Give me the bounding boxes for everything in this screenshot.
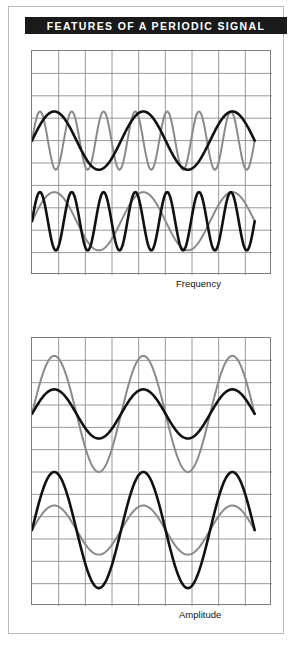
figure-title-bar: FEATURES OF A PERIODIC SIGNAL [25,17,287,34]
figure-title: FEATURES OF A PERIODIC SIGNAL [47,20,265,32]
chart-amplitude-canvas [32,338,272,606]
wave-large-amplitude-light [32,356,255,472]
chart-frequency [31,50,271,274]
wave-small-amplitude-dark [32,389,255,438]
panel-amplitude: Amplitude [31,337,271,629]
chart-amplitude-label: Amplitude [179,609,221,620]
chart-frequency-label: Frequency [176,278,221,289]
grid-lines [32,51,272,275]
wave-large-amplitude-dark [32,472,255,588]
panel-frequency: Frequency [31,50,271,298]
chart-amplitude [31,337,271,605]
figure-frame: FEATURES OF A PERIODIC SIGNAL Frequency … [8,6,284,634]
wave-small-amplitude-light [32,506,255,555]
chart-frequency-canvas [32,51,272,275]
